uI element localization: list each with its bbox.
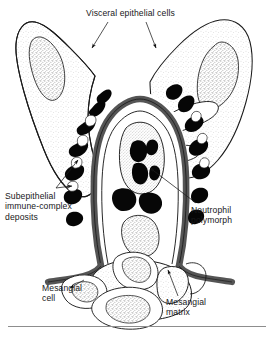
label-visceral-epithelial-cells: Visceral epithelial cells: [86, 8, 175, 18]
label-mesangial-cell: Mesangialcell: [42, 283, 82, 304]
label-neutrophil-polymorph: Neutrophilpolymorph: [191, 205, 232, 226]
neutrophil-polymorph: [119, 122, 164, 194]
neutrophil-nuclear-lobe-1: [130, 140, 147, 162]
visceral-epithelial-cell-left: [16, 22, 98, 197]
bottom-divider-rule: [8, 326, 266, 327]
label-mesangial-matrix: Mesangialmatrix: [166, 297, 206, 318]
label-subepithelial-immune-complex-deposits: Subepithelialimmune-complexdeposits: [5, 191, 72, 222]
leader-visceral-left: [92, 22, 108, 48]
leader-visceral-right: [146, 22, 156, 48]
figure-root: Visceral epithelial cells Subepitheliali…: [0, 0, 274, 337]
